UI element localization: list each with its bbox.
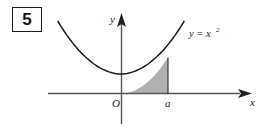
y-axis-label: y bbox=[109, 13, 115, 25]
shaded-region-under-curve bbox=[122, 57, 169, 93]
x-axis-label: x bbox=[249, 96, 255, 108]
parabola-plot: y = x 2 y x O a bbox=[0, 0, 267, 129]
curve-equation-exponent: 2 bbox=[216, 26, 220, 34]
origin-label: O bbox=[112, 97, 120, 109]
figure-container: 5 y = x 2 y x O a bbox=[0, 0, 267, 129]
curve-equation-label: y = x bbox=[188, 28, 211, 39]
upper-limit-label: a bbox=[165, 97, 171, 109]
